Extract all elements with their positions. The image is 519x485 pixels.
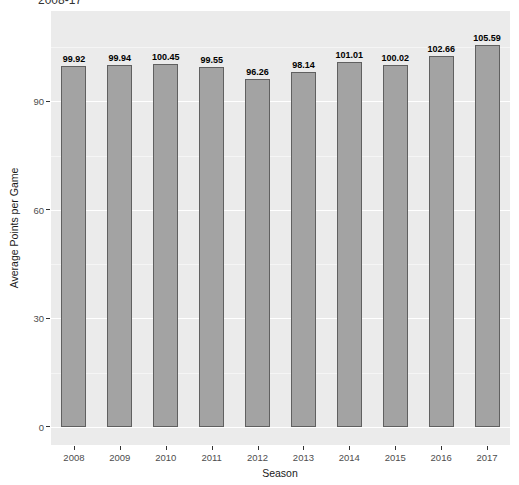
gridline-major bbox=[51, 427, 510, 428]
x-tick-mark bbox=[487, 446, 488, 450]
bar-value-label: 96.26 bbox=[246, 67, 269, 77]
plot-panel: 99.9299.94100.4599.5596.2698.14101.01100… bbox=[51, 11, 510, 445]
x-tick-label: 2014 bbox=[339, 452, 360, 463]
x-tick-label: 2010 bbox=[155, 452, 176, 463]
y-tick-mark bbox=[46, 318, 50, 319]
bar-value-label: 100.45 bbox=[152, 52, 180, 62]
bar-value-label: 99.92 bbox=[63, 54, 86, 64]
x-tick-mark bbox=[395, 446, 396, 450]
y-tick-label: 0 bbox=[39, 421, 44, 432]
bar-value-label: 98.14 bbox=[292, 60, 315, 70]
bar-chart-figure: 2008-17 Average Points per Game 99.9299.… bbox=[0, 0, 519, 485]
x-tick-mark bbox=[74, 446, 75, 450]
y-tick-mark bbox=[46, 101, 50, 102]
x-tick-label: 2011 bbox=[201, 452, 221, 463]
bar-value-label: 105.59 bbox=[473, 33, 501, 43]
y-axis-title: Average Points per Game bbox=[8, 168, 20, 289]
y-tick-mark bbox=[46, 209, 50, 210]
chart-title: 2008-17 bbox=[38, 0, 82, 7]
y-tick-mark bbox=[46, 426, 50, 427]
bar-2008 bbox=[61, 66, 86, 427]
bar-value-label: 101.01 bbox=[336, 50, 364, 60]
x-tick-mark bbox=[120, 446, 121, 450]
x-tick-label: 2017 bbox=[476, 452, 497, 463]
bar-value-label: 100.02 bbox=[381, 53, 409, 63]
bar-2010 bbox=[153, 64, 178, 427]
bar-2011 bbox=[199, 67, 224, 427]
x-tick-mark bbox=[212, 446, 213, 450]
bar-2016 bbox=[429, 56, 454, 427]
x-tick-label: 2013 bbox=[293, 452, 314, 463]
x-tick-label: 2015 bbox=[385, 452, 406, 463]
bar-2014 bbox=[337, 62, 362, 427]
bar-value-label: 102.66 bbox=[427, 44, 455, 54]
y-tick-label: 30 bbox=[33, 313, 44, 324]
x-tick-label: 2012 bbox=[247, 452, 268, 463]
y-tick-label: 90 bbox=[33, 96, 44, 107]
bar-value-label: 99.55 bbox=[200, 55, 223, 65]
y-tick-label: 60 bbox=[33, 204, 44, 215]
bar-value-label: 99.94 bbox=[109, 53, 132, 63]
bar-2013 bbox=[291, 72, 316, 427]
bar-2012 bbox=[245, 79, 270, 427]
x-axis-title: Season bbox=[262, 467, 298, 479]
x-tick-label: 2008 bbox=[63, 452, 84, 463]
x-tick-mark bbox=[441, 446, 442, 450]
bar-2009 bbox=[107, 65, 132, 426]
x-tick-label: 2016 bbox=[431, 452, 452, 463]
x-tick-mark bbox=[166, 446, 167, 450]
bar-2017 bbox=[475, 45, 500, 427]
x-tick-label: 2009 bbox=[109, 452, 130, 463]
x-tick-mark bbox=[349, 446, 350, 450]
x-tick-mark bbox=[258, 446, 259, 450]
bar-2015 bbox=[383, 65, 408, 427]
x-tick-mark bbox=[303, 446, 304, 450]
